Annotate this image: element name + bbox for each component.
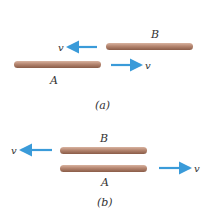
caption-a: (a) <box>95 99 110 112</box>
panel-b: B v v A (b) <box>11 132 200 209</box>
rod-b-label: B <box>99 132 108 145</box>
rod-a <box>60 165 147 172</box>
rod-b-label: B <box>150 28 159 41</box>
rod-a-label: A <box>100 176 109 189</box>
two-rods-diagram: B v v A (a) B v v A (b) <box>0 0 212 212</box>
velocity-label-b: v <box>11 145 17 156</box>
caption-b: (b) <box>97 196 113 209</box>
panel-a: B v v A (a) <box>14 28 193 112</box>
rod-b <box>106 43 193 50</box>
velocity-label-b: v <box>58 42 64 53</box>
rod-b <box>60 147 147 154</box>
rod-a-label: A <box>49 74 58 87</box>
rod-a <box>14 61 101 68</box>
velocity-label-a: v <box>194 163 200 174</box>
velocity-label-a: v <box>145 60 151 71</box>
